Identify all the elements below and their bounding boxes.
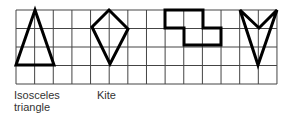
square-grid (16, 10, 277, 84)
label-line-1: Isosceles (14, 89, 60, 101)
shape-kite (92, 10, 128, 64)
label-isosceles-triangle: Isosceles triangle (14, 89, 60, 113)
shape-step-shape (165, 10, 221, 45)
grid-figure (0, 0, 287, 90)
label-line-2: triangle (14, 101, 60, 113)
label-kite: Kite (97, 89, 116, 101)
label-kite-text: Kite (97, 89, 116, 101)
